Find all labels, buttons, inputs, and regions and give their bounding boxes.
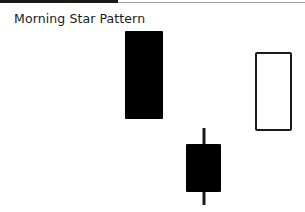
candle-2 bbox=[186, 128, 221, 205]
candles-group bbox=[125, 31, 291, 205]
candle-body-bearish bbox=[125, 31, 163, 119]
candlestick-chart bbox=[0, 0, 305, 212]
candle-1 bbox=[125, 31, 163, 119]
candle-body-bullish bbox=[256, 53, 291, 130]
candle-3 bbox=[256, 53, 291, 130]
candle-body-bearish bbox=[186, 144, 221, 192]
